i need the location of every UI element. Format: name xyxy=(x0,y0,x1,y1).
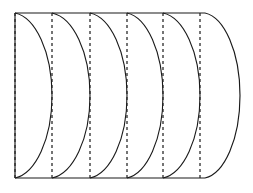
figure-canvas xyxy=(0,0,253,193)
cylinder-diagram xyxy=(0,0,253,193)
